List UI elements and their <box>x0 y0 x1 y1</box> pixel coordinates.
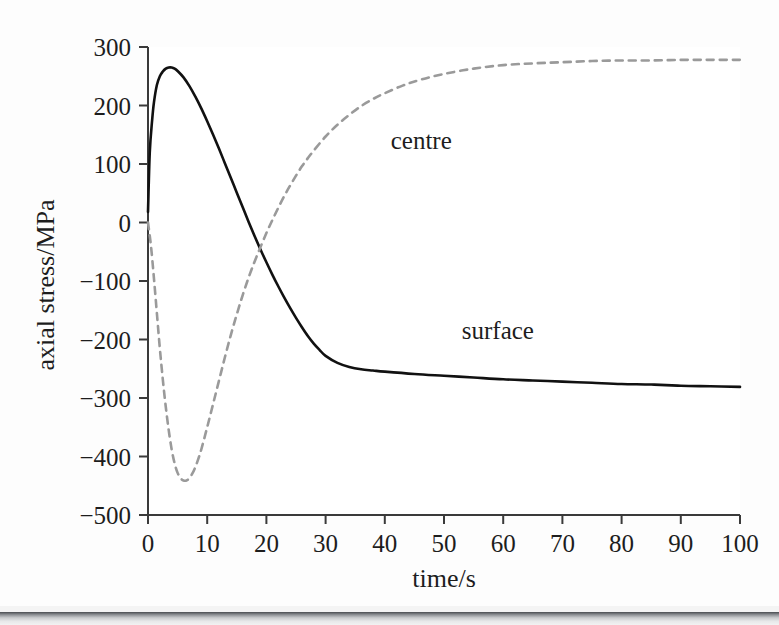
page-edge-shadow-band <box>0 606 779 625</box>
y-tick-label: 200 <box>94 93 132 120</box>
figure-container: −500−400−300−200−1000100200300 010203040… <box>0 0 779 625</box>
x-tick-label: 60 <box>491 530 516 557</box>
y-tick-label: −400 <box>79 444 131 471</box>
x-tick-label: 40 <box>372 530 397 557</box>
y-axis-title: axial stress/MPa <box>31 199 60 371</box>
y-tick-label: −300 <box>79 385 131 412</box>
y-tick-label: 0 <box>119 210 132 237</box>
series-label-surface: surface <box>462 317 534 344</box>
y-tick-label: −500 <box>79 502 131 529</box>
x-axis-title: time/s <box>412 564 476 593</box>
y-axis-ticks: −500−400−300−200−1000100200300 <box>79 34 148 529</box>
y-tick-label: −200 <box>79 327 131 354</box>
y-tick-label: −100 <box>79 268 131 295</box>
x-tick-label: 50 <box>432 530 457 557</box>
x-tick-label: 30 <box>313 530 338 557</box>
x-tick-label: 100 <box>721 530 759 557</box>
series-label-centre: centre <box>391 127 452 154</box>
x-tick-label: 90 <box>668 530 693 557</box>
x-axis-ticks: 0102030405060708090100 <box>142 515 759 557</box>
x-tick-label: 20 <box>254 530 279 557</box>
axial-stress-vs-time-chart: −500−400−300−200−1000100200300 010203040… <box>0 0 779 625</box>
y-tick-label: 100 <box>94 151 132 178</box>
x-tick-label: 70 <box>550 530 575 557</box>
plot-area-background <box>148 47 740 515</box>
x-tick-label: 80 <box>609 530 634 557</box>
x-tick-label: 0 <box>142 530 155 557</box>
y-tick-label: 300 <box>94 34 132 61</box>
x-tick-label: 10 <box>195 530 220 557</box>
